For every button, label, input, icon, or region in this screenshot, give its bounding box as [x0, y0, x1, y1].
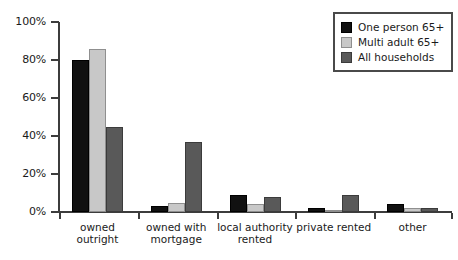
x-axis-tick	[374, 213, 376, 219]
bar-chart: 0%20%40%60%80%100% owned outrightowned w…	[0, 0, 458, 260]
bar	[168, 203, 185, 213]
bar	[308, 208, 325, 212]
x-axis-tick	[217, 213, 219, 219]
bar	[230, 195, 247, 212]
x-axis-category-label: local authority rented	[216, 221, 295, 245]
bar	[72, 60, 89, 212]
x-axis-tick	[295, 213, 297, 219]
y-axis-tick-label: 40%	[22, 129, 46, 142]
legend-item-label: All households	[358, 51, 434, 63]
bar-group	[72, 22, 123, 212]
bar	[421, 208, 438, 212]
bar	[342, 195, 359, 212]
x-axis-category-label: owned outright	[58, 221, 137, 245]
legend-item[interactable]: Multi adult 65+	[341, 35, 444, 49]
bar	[325, 210, 342, 212]
legend-item[interactable]: All households	[341, 50, 444, 64]
x-axis-category-label: owned with mortgage	[137, 221, 216, 245]
x-axis-tick	[138, 213, 140, 219]
y-axis-tick-label: 80%	[22, 53, 46, 66]
bar	[404, 208, 421, 212]
bar-group	[230, 22, 281, 212]
bar	[247, 204, 264, 212]
bar	[151, 206, 168, 212]
x-axis-category-label: private rented	[294, 221, 373, 233]
legend-item[interactable]: One person 65+	[341, 20, 444, 34]
legend-swatch-icon	[341, 52, 352, 63]
chart-legend: One person 65+Multi adult 65+All househo…	[333, 12, 453, 72]
y-axis-tick-label: 20%	[22, 167, 46, 180]
bar	[106, 127, 123, 213]
y-axis-tick-label: 60%	[22, 91, 46, 104]
bar	[89, 49, 106, 212]
y-axis-tick-label: 100%	[15, 15, 46, 28]
legend-swatch-icon	[341, 22, 352, 33]
bar	[264, 197, 281, 212]
y-axis-tick-label: 0%	[29, 205, 46, 218]
bar-group	[151, 22, 202, 212]
x-axis-tick	[451, 213, 453, 219]
bar	[185, 142, 202, 212]
legend-swatch-icon	[341, 37, 352, 48]
x-axis-category-label: other	[373, 221, 452, 233]
x-axis-tick	[59, 213, 61, 219]
legend-item-label: Multi adult 65+	[358, 36, 439, 48]
legend-item-label: One person 65+	[358, 21, 444, 33]
bar	[387, 204, 404, 212]
